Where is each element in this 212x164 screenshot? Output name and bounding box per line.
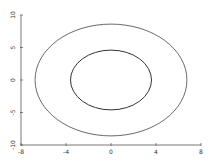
y-tick-label: -5 (9, 109, 16, 115)
outer-ellipse (35, 24, 187, 136)
y-tick-label: 5 (9, 45, 16, 49)
y-tick-label: 0 (9, 78, 16, 82)
axes (21, 15, 201, 145)
x-tick-label: 8 (199, 148, 203, 155)
y-tick-label: -10 (9, 140, 16, 150)
inner-ellipse (71, 50, 152, 110)
plot-series (35, 24, 187, 136)
x-tick-label: -8 (18, 148, 24, 155)
y-tick-label: 10 (9, 11, 16, 19)
x-tick-label: -4 (63, 148, 69, 155)
x-tick-label: 0 (109, 148, 113, 155)
chart-canvas: -8-4048 -10-50510 (0, 0, 212, 164)
x-tick-label: 4 (154, 148, 158, 155)
